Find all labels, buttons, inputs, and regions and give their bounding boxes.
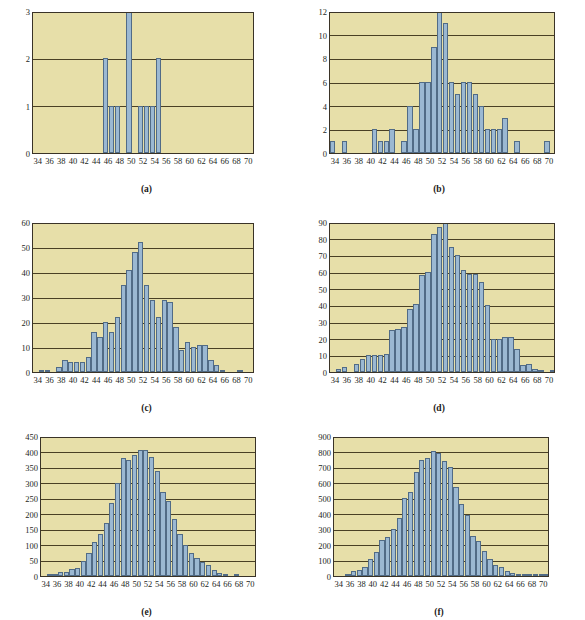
bar	[455, 94, 460, 153]
x-tick-label: 44	[98, 580, 107, 589]
x-tick-label: 48	[121, 580, 130, 589]
x-tick-label: 54	[150, 376, 159, 385]
x-tick-label: 40	[366, 157, 375, 166]
bar	[402, 498, 407, 576]
bar	[467, 274, 472, 372]
x-tick-label: 68	[232, 157, 241, 166]
bar	[126, 12, 131, 153]
x-tick-label: 34	[331, 376, 340, 385]
bar	[384, 354, 389, 372]
y-tick-label: 50	[319, 285, 328, 294]
bar	[520, 365, 525, 372]
bar	[56, 367, 61, 372]
x-tick-label: 58	[174, 376, 183, 385]
bar	[414, 472, 419, 576]
bar	[401, 141, 406, 153]
y-tick-label: 10	[22, 344, 31, 353]
bar	[443, 23, 448, 153]
bar	[374, 552, 379, 576]
bar	[413, 129, 418, 153]
y-axis-f: 0100200300400500600700800900	[293, 437, 333, 577]
bar-series-f	[334, 438, 548, 576]
bar	[437, 12, 442, 153]
bar	[479, 282, 484, 372]
x-tick-label: 34	[41, 580, 50, 589]
y-tick-label: 3	[26, 8, 30, 17]
bar-series-e	[41, 438, 255, 576]
bar	[360, 359, 365, 372]
x-tick-label: 38	[64, 580, 73, 589]
x-tick-label: 36	[343, 157, 352, 166]
y-tick-label: 0	[34, 573, 38, 582]
x-tick-label: 62	[201, 580, 210, 589]
bar	[98, 534, 103, 576]
bar	[449, 82, 454, 153]
bar	[502, 118, 507, 154]
y-tick-label: 8	[323, 55, 327, 64]
y-tick-label: 10	[319, 31, 328, 40]
bar	[80, 362, 85, 372]
bar-series-c	[33, 224, 253, 372]
y-tick-label: 2	[323, 126, 327, 135]
bar-series-d	[330, 224, 554, 372]
bar	[505, 571, 510, 576]
bar	[143, 450, 148, 576]
y-tick-label: 70	[319, 252, 328, 261]
x-tick-label: 56	[462, 376, 471, 385]
bar	[516, 574, 521, 576]
panel-a: 0123343638404244464850525456586062646668…	[0, 0, 293, 205]
panel-caption-e: (e)	[0, 607, 293, 617]
x-tick-label: 52	[139, 376, 148, 385]
bar	[200, 562, 205, 576]
bar	[436, 453, 441, 576]
x-tick-label: 40	[76, 580, 85, 589]
y-tick-label: 0	[26, 369, 30, 378]
x-axis-a: 34363840424446485052545658606264666870	[32, 157, 254, 171]
y-tick-label: 80	[319, 235, 328, 244]
bar	[473, 274, 478, 372]
bar	[419, 82, 424, 153]
x-tick-label: 40	[69, 157, 78, 166]
bar	[69, 569, 74, 576]
bar	[485, 129, 490, 153]
bar	[212, 570, 217, 576]
y-axis-e: 050100150200250300350400450	[0, 437, 40, 577]
y-tick-label: 50	[30, 557, 39, 566]
bar	[482, 551, 487, 576]
x-tick-label: 42	[80, 157, 89, 166]
bar	[75, 568, 80, 576]
x-tick-label: 46	[104, 376, 113, 385]
bar	[336, 369, 341, 372]
bar	[330, 141, 335, 153]
bar-series-a	[33, 13, 253, 153]
panel-e: 0501001502002503003504004503436384042444…	[0, 425, 293, 620]
bar	[58, 572, 63, 576]
bar	[497, 339, 502, 372]
bar	[389, 330, 394, 372]
bar	[150, 106, 155, 153]
x-tick-label: 34	[34, 157, 43, 166]
bar	[425, 82, 430, 153]
bar	[385, 537, 390, 576]
bar	[115, 106, 120, 153]
bar	[407, 106, 412, 153]
x-tick-label: 64	[209, 376, 218, 385]
x-tick-label: 70	[545, 376, 554, 385]
bar	[217, 573, 222, 576]
bar	[395, 329, 400, 372]
bar	[431, 234, 436, 372]
bar	[437, 227, 442, 372]
bar	[391, 529, 396, 576]
bar	[544, 574, 549, 576]
bar	[372, 129, 377, 153]
bar	[493, 565, 498, 576]
x-tick-label: 50	[426, 376, 435, 385]
y-tick-label: 400	[318, 511, 331, 520]
bar	[342, 141, 347, 153]
x-tick-label: 68	[533, 376, 542, 385]
bar	[487, 559, 492, 576]
x-tick-label: 70	[244, 157, 253, 166]
x-tick-label: 70	[545, 157, 554, 166]
y-tick-label: 350	[25, 464, 38, 473]
bar	[461, 82, 466, 153]
